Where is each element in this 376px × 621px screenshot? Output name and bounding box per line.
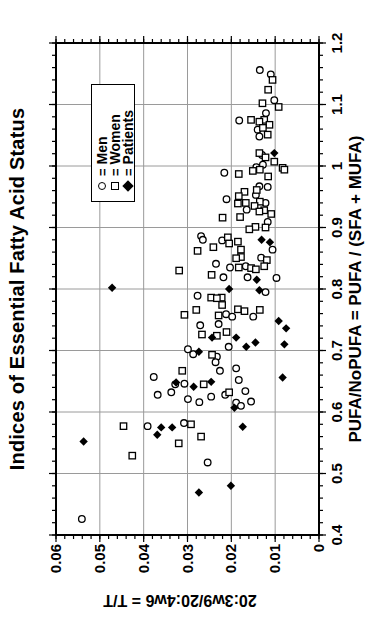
svg-text:0.9: 0.9	[328, 217, 345, 238]
svg-text:0.04: 0.04	[135, 543, 152, 573]
legend-equals: =	[121, 168, 136, 176]
x-axis-label: PUFA/NoPUFA = PUFA / (SFA + MUFA)	[346, 43, 366, 535]
svg-text:0.02: 0.02	[222, 544, 239, 573]
svg-text:0.6: 0.6	[328, 402, 345, 423]
svg-text:1.2: 1.2	[328, 33, 345, 54]
svg-text:1.1: 1.1	[328, 94, 345, 115]
patients-diamond-icon	[122, 180, 133, 191]
legend-label-patients: Patients	[120, 110, 136, 164]
svg-text:0.8: 0.8	[328, 279, 345, 300]
svg-text:0.03: 0.03	[179, 544, 196, 573]
svg-text:0.7: 0.7	[328, 340, 345, 361]
svg-text:0: 0	[310, 544, 327, 552]
svg-text:0.5: 0.5	[328, 463, 345, 484]
legend-row-patients: = Patients	[122, 85, 134, 191]
svg-text:0.4: 0.4	[328, 524, 345, 546]
y-axis-label: 20:3w9/20:4w6 = T/T	[80, 589, 280, 609]
svg-text:0.05: 0.05	[91, 544, 108, 573]
rotated-chart: Indices of Essential Fatty Acid Status 0…	[0, 0, 376, 621]
women-square-icon	[111, 182, 119, 190]
svg-text:1: 1	[328, 162, 345, 170]
men-circle-icon	[98, 182, 106, 190]
scatter-plot: 0.40.50.60.70.80.911.11.200.010.020.030.…	[0, 0, 376, 621]
legend: = Men = Women = Patients	[91, 84, 135, 202]
svg-text:0.06: 0.06	[47, 544, 64, 573]
figure-page: Indices of Essential Fatty Acid Status 0…	[0, 0, 376, 621]
svg-text:0.01: 0.01	[266, 544, 283, 573]
